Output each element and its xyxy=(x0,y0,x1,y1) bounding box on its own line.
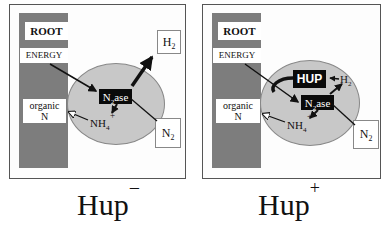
organic-n-arrow xyxy=(263,114,285,122)
arrows-right xyxy=(0,0,385,231)
caption-hup-minus: Hup− xyxy=(77,190,140,220)
hup-recycle-arrow xyxy=(273,78,293,92)
n2-input-line xyxy=(332,104,355,125)
caption-hup-plus: Hup+ xyxy=(258,190,320,220)
h2-uptake-arrow xyxy=(330,78,339,79)
ammonium-arrow xyxy=(310,110,318,118)
energy-arrow xyxy=(245,64,298,102)
h2-arrow xyxy=(330,84,342,94)
